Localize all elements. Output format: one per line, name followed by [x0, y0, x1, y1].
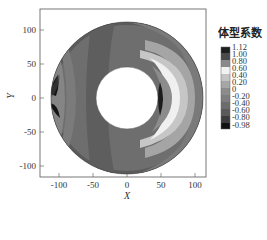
colorbar [221, 47, 230, 129]
x-tick-label: 0 [125, 180, 130, 190]
inner-hole [96, 67, 158, 129]
colorbar-title: 体型系数 [218, 24, 262, 40]
x-tick-label: 50 [157, 180, 167, 190]
y-axis-label: Y [5, 92, 16, 99]
x-tick-label: -100 [51, 180, 68, 190]
y-tick-label: -50 [24, 127, 36, 137]
x-tick-label: 100 [188, 180, 202, 190]
y-tick-label: 50 [27, 59, 37, 69]
y-tick-label: 100 [23, 25, 37, 35]
y-tick-label: 0 [32, 93, 37, 103]
y-tick-label: -100 [20, 161, 37, 171]
x-axis-label: X [123, 190, 131, 201]
colorbar-label: -0.98 [232, 120, 250, 130]
x-tick-label: -50 [87, 180, 99, 190]
